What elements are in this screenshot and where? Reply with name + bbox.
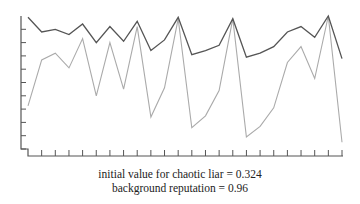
x-axis-ticks [42, 150, 342, 156]
y-axis-ticks [21, 29, 26, 149]
series-line-reputation [28, 16, 342, 59]
line-chart [0, 0, 360, 160]
data-lines [28, 16, 342, 142]
caption-initial-value: initial value for chaotic liar = 0.324 [0, 167, 360, 181]
axis-line [21, 16, 343, 156]
caption-background-reputation: background reputation = 0.96 [0, 181, 360, 195]
chart-axes [21, 16, 343, 156]
